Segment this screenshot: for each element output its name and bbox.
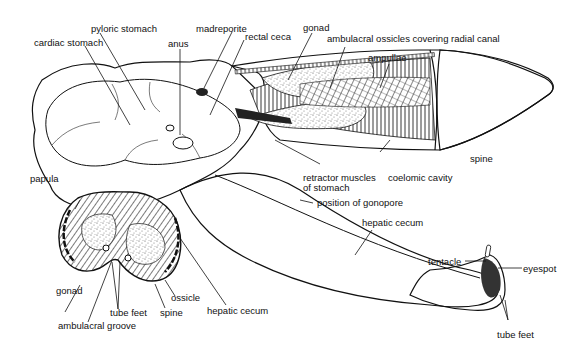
label-ambulacral-groove: ambulacral groove xyxy=(58,320,136,331)
label-spine-bottom: spine xyxy=(160,307,183,318)
label-cardiac-stomach: cardiac stomach xyxy=(34,37,103,48)
stomach-cavity xyxy=(46,79,240,166)
label-gonad-top: gonad xyxy=(303,22,329,33)
label-anus: anus xyxy=(168,38,189,49)
label-ampullae: ampullae xyxy=(368,52,407,63)
label-gonad-bottom: gonad xyxy=(56,285,82,296)
label-spine-right: spine xyxy=(470,153,493,164)
label-tube-feet-right: tube feet xyxy=(497,329,534,340)
label-tube-feet-bottom: tube feet xyxy=(110,307,147,318)
label-position-of-gonopore: position of gonopore xyxy=(317,197,403,208)
label-tentacle: tentacle xyxy=(428,256,461,267)
lower-arm xyxy=(180,173,498,307)
label-rectal-ceca: rectal ceca xyxy=(245,31,291,42)
label-eyespot: eyespot xyxy=(523,263,556,274)
tube-feet-cluster xyxy=(481,258,501,298)
label-hepatic-cecum-right: hepatic cecum xyxy=(362,217,423,228)
label-coelomic-cavity: coelomic cavity xyxy=(388,172,452,183)
label-retractor-muscles-line2: of stomach xyxy=(303,182,349,193)
anus-structure xyxy=(173,137,193,149)
label-papula: papula xyxy=(30,173,59,184)
label-ambulacral-ossicles: ambulacral ossicles covering radial cana… xyxy=(327,33,500,44)
label-hepatic-cecum-bottom: hepatic cecum xyxy=(207,305,268,316)
sea-star-anatomy-diagram xyxy=(0,0,577,355)
label-pyloric-stomach: pyloric stomach xyxy=(91,23,157,34)
upper-arm-ampullae xyxy=(300,77,430,107)
madreporite-disk xyxy=(196,88,208,96)
label-madreporite: madreporite xyxy=(196,23,247,34)
upper-arm-tip xyxy=(437,50,553,150)
label-ossicle: ossicle xyxy=(171,292,200,303)
